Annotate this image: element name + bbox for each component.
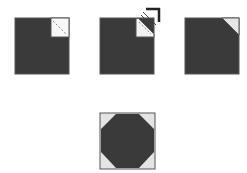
step-1-square (15, 18, 69, 74)
step-3-square (185, 18, 239, 74)
diagram-canvas (0, 0, 247, 173)
step-4-finished-block (100, 113, 155, 169)
step-2-square (100, 9, 159, 74)
octagon-center (101, 114, 154, 168)
